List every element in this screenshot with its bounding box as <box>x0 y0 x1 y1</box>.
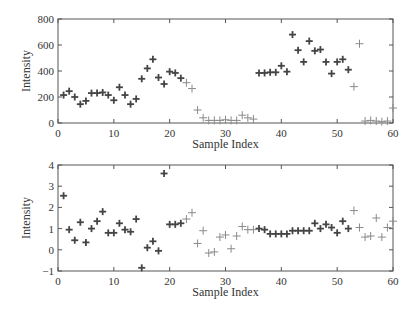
plus-marker <box>356 40 364 48</box>
plus-marker <box>356 224 364 232</box>
plus-marker <box>172 69 179 76</box>
plus-marker <box>383 224 391 232</box>
plus-marker <box>372 117 380 125</box>
plus-marker <box>149 238 156 245</box>
plus-marker <box>278 62 285 69</box>
plus-marker <box>350 83 358 91</box>
plus-marker <box>222 231 230 239</box>
plus-marker <box>306 227 313 234</box>
x-tick-label: 40 <box>276 127 288 139</box>
plus-marker <box>311 220 318 227</box>
plus-marker <box>194 106 202 114</box>
plus-marker <box>144 65 151 72</box>
plus-marker <box>199 227 207 235</box>
plus-marker <box>283 68 290 75</box>
x-tick-label: 60 <box>388 275 400 287</box>
x-tick-label: 0 <box>55 127 61 139</box>
plus-marker <box>311 47 318 54</box>
x-tick-label: 20 <box>164 127 176 139</box>
plus-marker <box>71 94 78 101</box>
plus-marker <box>383 117 391 125</box>
plus-marker <box>166 68 173 75</box>
plus-marker <box>334 229 341 236</box>
plus-marker <box>138 264 145 271</box>
y-tick-label: 2 <box>49 201 55 213</box>
plot-frame <box>58 19 393 123</box>
plus-marker <box>155 74 162 81</box>
plus-marker <box>323 58 330 65</box>
plus-marker <box>66 88 73 95</box>
plus-marker <box>306 38 313 45</box>
plus-marker <box>300 58 307 65</box>
plus-marker <box>361 233 369 241</box>
plus-marker <box>94 218 101 225</box>
plus-marker <box>116 220 123 227</box>
x-axis-label: Sample Index <box>192 285 258 299</box>
plus-marker <box>361 117 369 125</box>
plus-marker <box>71 237 78 244</box>
plus-marker <box>317 46 324 53</box>
plus-marker <box>350 207 358 215</box>
x-tick-label: 60 <box>388 127 400 139</box>
plus-marker <box>144 244 151 251</box>
y-tick-label: 3 <box>49 180 55 192</box>
y-axis-label: Intensity <box>19 197 33 239</box>
plus-marker <box>116 84 123 91</box>
y-tick-label: 200 <box>38 91 55 103</box>
plus-marker <box>295 47 302 54</box>
plus-marker <box>155 247 162 254</box>
y-tick-label: 600 <box>38 39 55 51</box>
plus-marker <box>188 85 196 93</box>
plus-marker <box>133 95 140 102</box>
x-tick-label: 10 <box>108 127 120 139</box>
plus-marker <box>88 225 95 232</box>
plus-marker <box>256 225 263 232</box>
plus-marker <box>367 232 375 240</box>
plus-marker <box>172 221 179 228</box>
plus-marker <box>66 226 73 233</box>
bottom-scatter-plot: 0102030405060−101234Sample IndexIntensit… <box>19 159 399 299</box>
plus-marker <box>110 229 117 236</box>
plus-marker <box>339 218 346 225</box>
plus-marker <box>177 75 184 82</box>
plus-marker <box>133 216 140 223</box>
plus-marker <box>233 232 241 240</box>
y-tick-label: 800 <box>38 13 55 25</box>
plus-marker <box>161 81 168 88</box>
plus-marker <box>82 239 89 246</box>
plus-marker <box>317 225 324 232</box>
y-tick-label: −1 <box>42 265 54 277</box>
x-tick-label: 50 <box>332 127 344 139</box>
plus-marker <box>227 245 235 253</box>
y-tick-label: 0 <box>49 117 55 129</box>
series-dark-markers <box>60 170 352 271</box>
plus-marker <box>216 233 224 241</box>
plus-marker <box>205 249 213 257</box>
plus-marker <box>161 170 168 177</box>
x-tick-label: 20 <box>164 275 176 287</box>
plus-marker <box>249 115 257 123</box>
y-tick-label: 0 <box>49 244 55 256</box>
plus-marker <box>60 192 67 199</box>
plus-marker <box>138 75 145 82</box>
x-tick-label: 10 <box>108 275 120 287</box>
plus-marker <box>210 248 218 256</box>
plus-marker <box>345 225 352 232</box>
plus-marker <box>378 118 386 126</box>
y-tick-label: 400 <box>38 65 55 77</box>
plus-marker <box>261 226 268 233</box>
plus-marker <box>194 239 202 247</box>
plus-marker <box>372 214 380 222</box>
y-tick-label: 4 <box>49 159 55 171</box>
plus-marker <box>77 219 84 226</box>
plus-marker <box>182 215 190 223</box>
plus-marker <box>389 104 397 112</box>
plus-marker <box>249 226 257 234</box>
plus-marker <box>289 31 296 38</box>
series-dark-markers <box>60 31 352 108</box>
plus-marker <box>110 97 117 104</box>
series-light-markers <box>182 207 397 257</box>
plus-marker <box>328 70 335 77</box>
plus-marker <box>378 233 386 241</box>
plus-marker <box>127 101 134 108</box>
